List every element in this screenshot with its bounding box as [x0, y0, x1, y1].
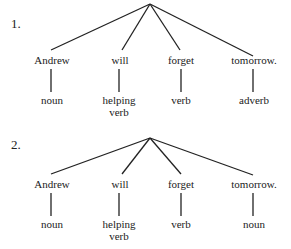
part-of-speech-label: verb [171, 94, 191, 106]
tree-1-branches [51, 4, 253, 56]
part-of-speech-label: helping verb [103, 218, 136, 242]
word: forget [168, 178, 194, 190]
part-of-speech-label: verb [171, 218, 191, 230]
part-of-speech-label: noun [243, 218, 265, 230]
part-of-speech-label: adverb [239, 94, 269, 106]
part-of-speech-label: helping verb [103, 94, 136, 118]
word: tomorrow. [231, 54, 276, 66]
label-line: helping [103, 94, 136, 106]
tree-1-stems [51, 69, 253, 92]
diagram-number: 1. [11, 16, 21, 32]
part-of-speech-label: noun [41, 218, 63, 230]
word: tomorrow. [231, 178, 276, 190]
word: will [111, 178, 128, 190]
part-of-speech-label: noun [41, 94, 63, 106]
label-line: verb [103, 106, 136, 118]
word: Andrew [34, 178, 69, 190]
tree-lines [0, 0, 291, 249]
word: Andrew [34, 54, 69, 66]
label-line: verb [103, 230, 136, 242]
tree-2-branches [51, 138, 253, 175]
tree-2-stems [51, 193, 253, 216]
word: forget [168, 54, 194, 66]
label-line: helping [103, 218, 136, 230]
word: will [111, 54, 128, 66]
diagram-number: 2. [11, 137, 21, 153]
